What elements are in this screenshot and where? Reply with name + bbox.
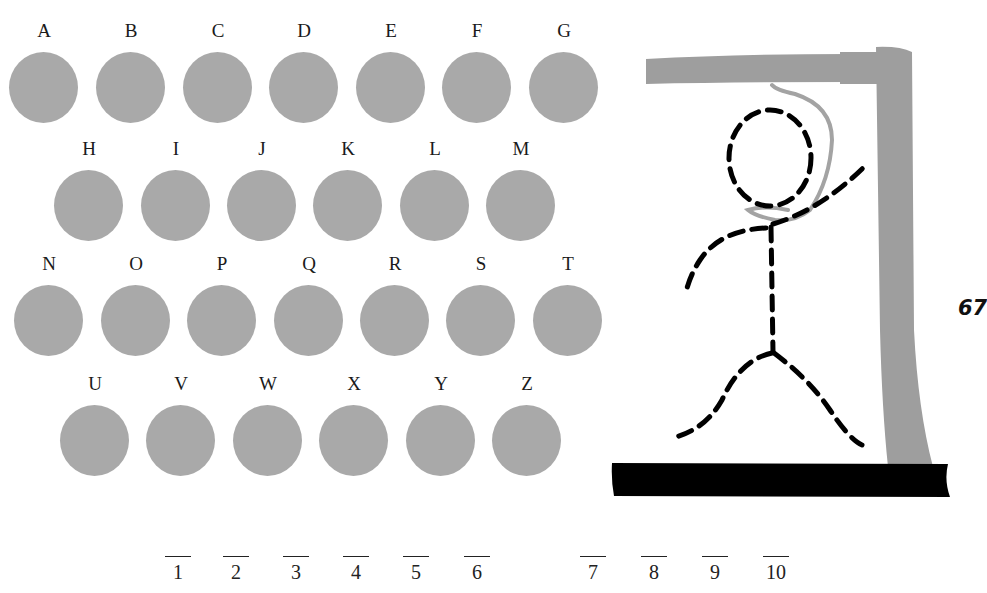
- letter-button-o[interactable]: O: [101, 253, 171, 353]
- letter-disc-icon[interactable]: [233, 405, 302, 476]
- letter-disc-icon[interactable]: [9, 52, 78, 123]
- answer-blank-line: [580, 556, 606, 557]
- letter-disc-icon[interactable]: [183, 52, 252, 123]
- letter-label: B: [96, 20, 166, 42]
- letter-button-x[interactable]: X: [319, 373, 389, 473]
- figure-right-leg: [774, 353, 862, 445]
- letter-button-d[interactable]: D: [269, 20, 339, 120]
- slot-number: 10: [762, 561, 790, 583]
- letter-button-c[interactable]: C: [183, 20, 253, 120]
- figure-left-leg: [672, 353, 772, 438]
- letter-button-h[interactable]: H: [54, 138, 124, 238]
- figure-body: [771, 227, 773, 352]
- letter-label: V: [146, 373, 216, 395]
- letter-disc-icon[interactable]: [187, 285, 256, 356]
- answer-blank-line: [464, 556, 490, 557]
- gallows-post: [876, 47, 933, 467]
- letter-disc-icon[interactable]: [492, 405, 561, 476]
- gallows-base: [612, 463, 950, 497]
- letter-disc-icon[interactable]: [406, 405, 475, 476]
- letter-button-w[interactable]: W: [233, 373, 303, 473]
- letter-button-z[interactable]: Z: [492, 373, 562, 473]
- letter-button-r[interactable]: R: [360, 253, 430, 353]
- stick-figure-icon: [672, 110, 863, 445]
- letter-disc-icon[interactable]: [446, 285, 515, 356]
- answer-slot-8: 8: [640, 556, 668, 583]
- letter-button-f[interactable]: F: [442, 20, 512, 120]
- answer-slot-7: 7: [579, 556, 607, 583]
- letter-disc-icon[interactable]: [319, 405, 388, 476]
- slot-number: 8: [640, 561, 668, 583]
- letter-label: I: [141, 138, 211, 160]
- slot-number: 7: [579, 561, 607, 583]
- letter-label: T: [533, 253, 603, 275]
- answer-slot-9: 9: [701, 556, 729, 583]
- letter-button-s[interactable]: S: [446, 253, 516, 353]
- letter-disc-icon[interactable]: [101, 285, 170, 356]
- answer-slot-4: 4: [342, 556, 370, 583]
- slot-number: 9: [701, 561, 729, 583]
- letter-label: Z: [492, 373, 562, 395]
- letter-disc-icon[interactable]: [14, 285, 83, 356]
- answer-slot-3: 3: [282, 556, 310, 583]
- answer-blank-line: [641, 556, 667, 557]
- letter-disc-icon[interactable]: [529, 52, 598, 123]
- letter-disc-icon[interactable]: [533, 285, 602, 356]
- letter-label: N: [14, 253, 84, 275]
- letter-button-p[interactable]: P: [187, 253, 257, 353]
- letter-button-v[interactable]: V: [146, 373, 216, 473]
- letter-label: M: [486, 138, 556, 160]
- gallows-beam: [646, 54, 850, 84]
- slot-number: 3: [282, 561, 310, 583]
- slot-number: 2: [222, 561, 250, 583]
- letter-disc-icon[interactable]: [54, 170, 123, 241]
- letter-disc-icon[interactable]: [313, 170, 382, 241]
- letter-button-q[interactable]: Q: [274, 253, 344, 353]
- letter-disc-icon[interactable]: [269, 52, 338, 123]
- letter-disc-icon[interactable]: [146, 405, 215, 476]
- letter-label: O: [101, 253, 171, 275]
- figure-head: [729, 110, 811, 206]
- letter-disc-icon[interactable]: [141, 170, 210, 241]
- letter-disc-icon[interactable]: [442, 52, 511, 123]
- letter-label: Q: [274, 253, 344, 275]
- letter-button-n[interactable]: N: [14, 253, 84, 353]
- letter-button-b[interactable]: B: [96, 20, 166, 120]
- letter-button-m[interactable]: M: [486, 138, 556, 238]
- letter-disc-icon[interactable]: [60, 405, 129, 476]
- answer-blank-line: [403, 556, 429, 557]
- answer-slot-2: 2: [222, 556, 250, 583]
- letter-disc-icon[interactable]: [400, 170, 469, 241]
- letter-disc-icon[interactable]: [96, 52, 165, 123]
- letter-disc-icon[interactable]: [360, 285, 429, 356]
- answer-blank-line: [763, 556, 789, 557]
- letter-button-t[interactable]: T: [533, 253, 603, 353]
- letter-button-k[interactable]: K: [313, 138, 383, 238]
- letter-label: W: [233, 373, 303, 395]
- letter-disc-icon[interactable]: [274, 285, 343, 356]
- letter-label: G: [529, 20, 599, 42]
- letter-label: C: [183, 20, 253, 42]
- letter-button-j[interactable]: J: [227, 138, 297, 238]
- letter-button-a[interactable]: A: [9, 20, 79, 120]
- letter-button-y[interactable]: Y: [406, 373, 476, 473]
- letter-disc-icon[interactable]: [356, 52, 425, 123]
- answer-blank-line: [283, 556, 309, 557]
- answer-slot-10: 10: [762, 556, 790, 583]
- letter-label: A: [9, 20, 79, 42]
- letter-label: L: [400, 138, 470, 160]
- letter-label: J: [227, 138, 297, 160]
- slot-number: 6: [463, 561, 491, 583]
- letter-label: Y: [406, 373, 476, 395]
- letter-button-u[interactable]: U: [60, 373, 130, 473]
- letter-disc-icon[interactable]: [227, 170, 296, 241]
- letter-button-e[interactable]: E: [356, 20, 426, 120]
- letter-disc-icon[interactable]: [486, 170, 555, 241]
- letter-button-i[interactable]: I: [141, 138, 211, 238]
- letter-label: K: [313, 138, 383, 160]
- answer-blank-line: [223, 556, 249, 557]
- letter-button-g[interactable]: G: [529, 20, 599, 120]
- letter-label: U: [60, 373, 130, 395]
- letter-button-l[interactable]: L: [400, 138, 470, 238]
- letter-label: F: [442, 20, 512, 42]
